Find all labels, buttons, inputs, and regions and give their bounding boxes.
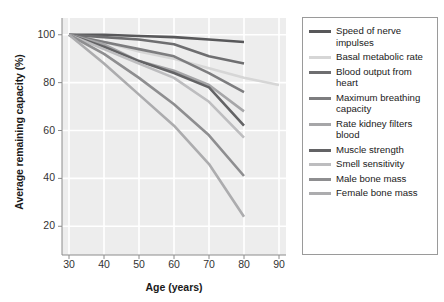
x-tick-label: 50: [119, 258, 159, 270]
legend-item-label: Female bone mass: [336, 187, 418, 199]
legend-item[interactable]: Speed of nerve impulses: [309, 25, 432, 48]
legend-swatch-icon: [309, 97, 331, 100]
legend-item[interactable]: Smell sensitivity: [309, 158, 432, 170]
legend-item[interactable]: Rate kidney filters blood: [309, 118, 432, 141]
legend-swatch-icon: [309, 123, 331, 126]
legend-swatch-icon: [309, 149, 331, 152]
y-tick-label: 60: [15, 124, 55, 136]
legend-item-label: Basal metabolic rate: [336, 51, 423, 63]
legend-item[interactable]: Blood output from heart: [309, 66, 432, 89]
y-tick-label: 40: [15, 171, 55, 183]
legend-swatch-icon: [309, 192, 331, 195]
x-tick-label: 30: [49, 258, 89, 270]
legend-swatch-icon: [309, 30, 331, 33]
legend-swatch-icon: [309, 71, 331, 74]
x-axis-title: Age (years): [62, 281, 286, 293]
legend-item[interactable]: Basal metabolic rate: [309, 51, 432, 63]
legend-item[interactable]: Maximum breathing capacity: [309, 92, 432, 115]
legend-item-label: Male bone mass: [336, 173, 406, 185]
y-tick-label: 20: [15, 219, 55, 231]
legend-item[interactable]: Female bone mass: [309, 187, 432, 199]
legend-item-label: Speed of nerve impulses: [336, 25, 432, 48]
x-tick-label: 60: [154, 258, 194, 270]
x-tick-label: 70: [189, 258, 229, 270]
legend-item[interactable]: Muscle strength: [309, 144, 432, 156]
legend-swatch-icon: [309, 56, 331, 59]
legend-item[interactable]: Male bone mass: [309, 173, 432, 185]
legend-item-label: Rate kidney filters blood: [336, 118, 432, 141]
y-tick-label: 100: [15, 28, 55, 40]
legend-item-label: Blood output from heart: [336, 66, 432, 89]
legend-swatch-icon: [309, 163, 331, 166]
legend-item-label: Maximum breathing capacity: [336, 92, 432, 115]
chart-figure: Average remaining capacity (%) Age (year…: [0, 0, 444, 302]
legend-swatch-icon: [309, 178, 331, 181]
x-tick-label: 80: [224, 258, 264, 270]
y-tick-label: 80: [15, 76, 55, 88]
chart-legend: Speed of nerve impulsesBasal metabolic r…: [302, 17, 438, 255]
legend-item-label: Muscle strength: [336, 144, 404, 156]
x-tick-label: 90: [259, 258, 299, 270]
x-tick-label: 40: [84, 258, 124, 270]
legend-item-label: Smell sensitivity: [336, 158, 404, 170]
